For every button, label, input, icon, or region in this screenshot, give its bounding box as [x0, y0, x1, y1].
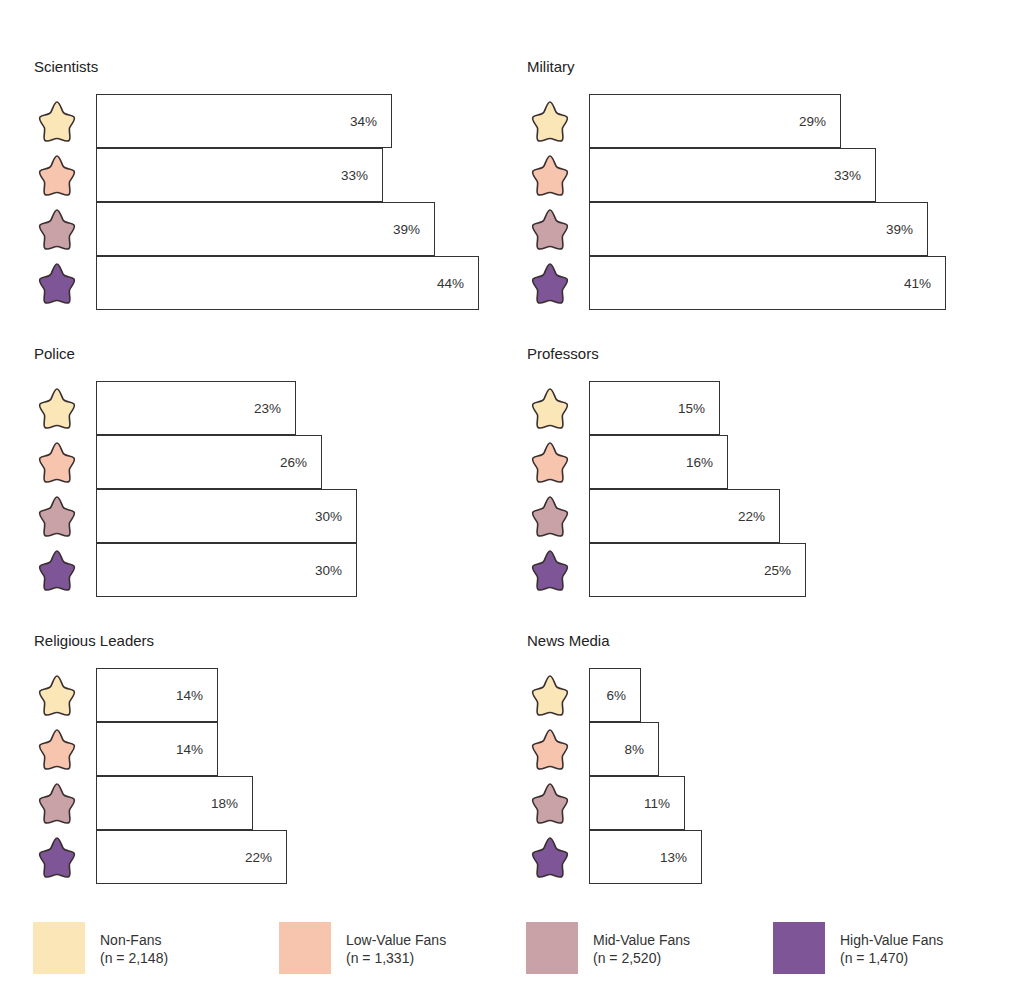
panel-religious-leaders: Religious Leaders14%14%18%22%	[34, 632, 514, 892]
star-icon	[527, 835, 573, 881]
legend-swatch	[33, 922, 85, 974]
bar-value-label: 22%	[738, 509, 765, 524]
bar-row: 33%	[527, 148, 1007, 202]
star-icon	[527, 386, 573, 432]
bar: 33%	[589, 148, 876, 202]
bar-row: 16%	[527, 435, 1007, 489]
legend-swatch	[773, 922, 825, 974]
bar-value-label: 33%	[341, 168, 368, 183]
star-icon	[34, 153, 80, 199]
legend-label: Non-Fans	[100, 931, 168, 949]
star-icon	[527, 673, 573, 719]
bar-value-label: 14%	[176, 688, 203, 703]
bar: 29%	[589, 94, 841, 148]
bar: 22%	[96, 830, 287, 884]
panel-professors: Professors15%16%22%25%	[527, 345, 1007, 605]
star-icon	[34, 207, 80, 253]
bar-value-label: 30%	[315, 563, 342, 578]
bar: 30%	[96, 489, 357, 543]
star-icon	[527, 727, 573, 773]
bar: 22%	[589, 489, 780, 543]
bar-row: 44%	[34, 256, 514, 310]
bar-row: 34%	[34, 94, 514, 148]
bar-row: 30%	[34, 489, 514, 543]
star-icon	[527, 207, 573, 253]
bar-value-label: 39%	[886, 222, 913, 237]
bar-value-label: 8%	[624, 742, 644, 757]
bar-row: 26%	[34, 435, 514, 489]
bar-value-label: 26%	[280, 455, 307, 470]
bar-row: 6%	[527, 668, 1007, 722]
star-icon	[527, 261, 573, 307]
panel-scientists: Scientists34%33%39%44%	[34, 58, 514, 318]
bar: 13%	[589, 830, 702, 884]
star-icon	[34, 261, 80, 307]
bar: 14%	[96, 722, 218, 776]
star-icon	[527, 99, 573, 145]
bar-value-label: 25%	[764, 563, 791, 578]
bar: 18%	[96, 776, 253, 830]
star-icon	[34, 727, 80, 773]
bar-value-label: 29%	[799, 114, 826, 129]
legend-count: (n = 2,148)	[100, 949, 168, 967]
bar: 11%	[589, 776, 685, 830]
bar-row: 39%	[34, 202, 514, 256]
bar-value-label: 30%	[315, 509, 342, 524]
bar-row: 8%	[527, 722, 1007, 776]
star-icon	[34, 781, 80, 827]
star-icon	[527, 440, 573, 486]
bar-row: 22%	[527, 489, 1007, 543]
bar-value-label: 41%	[904, 276, 931, 291]
bar: 30%	[96, 543, 357, 597]
bar: 44%	[96, 256, 479, 310]
star-icon	[34, 548, 80, 594]
legend-swatch	[279, 922, 331, 974]
bar-row: 14%	[34, 722, 514, 776]
bar: 39%	[96, 202, 435, 256]
bar-value-label: 18%	[211, 796, 238, 811]
bar: 16%	[589, 435, 728, 489]
bar-value-label: 6%	[606, 688, 626, 703]
bar-row: 11%	[527, 776, 1007, 830]
bar: 8%	[589, 722, 659, 776]
legend-label: Low-Value Fans	[346, 931, 446, 949]
star-icon	[34, 440, 80, 486]
star-icon	[34, 835, 80, 881]
bar: 23%	[96, 381, 296, 435]
bar-row: 39%	[527, 202, 1007, 256]
star-icon	[527, 494, 573, 540]
bar-value-label: 34%	[350, 114, 377, 129]
legend-swatch	[526, 922, 578, 974]
panel-police: Police23%26%30%30%	[34, 345, 514, 605]
bar: 33%	[96, 148, 383, 202]
panel-title: Professors	[527, 345, 599, 362]
panel-news-media: News Media6%8%11%13%	[527, 632, 1007, 892]
bar-value-label: 44%	[437, 276, 464, 291]
legend-count: (n = 1,331)	[346, 949, 446, 967]
bar-value-label: 15%	[678, 401, 705, 416]
bar-value-label: 33%	[834, 168, 861, 183]
bar-row: 18%	[34, 776, 514, 830]
legend-count: (n = 2,520)	[593, 949, 690, 967]
legend-count: (n = 1,470)	[840, 949, 943, 967]
bar-value-label: 23%	[254, 401, 281, 416]
legend-label: High-Value Fans	[840, 931, 943, 949]
legend: Non-Fans (n = 2,148) Low-Value Fans (n =…	[0, 922, 1016, 978]
star-icon	[527, 548, 573, 594]
panel-title: Religious Leaders	[34, 632, 154, 649]
panel-military: Military29%33%39%41%	[527, 58, 1007, 318]
bar-row: 14%	[34, 668, 514, 722]
bar-row: 13%	[527, 830, 1007, 884]
bar: 6%	[589, 668, 641, 722]
legend-label: Mid-Value Fans	[593, 931, 690, 949]
bar-value-label: 16%	[686, 455, 713, 470]
bar-row: 22%	[34, 830, 514, 884]
star-icon	[34, 673, 80, 719]
bar: 25%	[589, 543, 806, 597]
bar: 41%	[589, 256, 946, 310]
star-icon	[34, 99, 80, 145]
panel-title: Police	[34, 345, 75, 362]
panel-title: Scientists	[34, 58, 98, 75]
bar-row: 30%	[34, 543, 514, 597]
bar-row: 33%	[34, 148, 514, 202]
